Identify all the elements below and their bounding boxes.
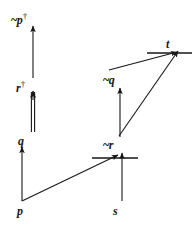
edge-nr-to-t <box>119 51 178 136</box>
atom-symbol: s <box>113 204 118 218</box>
diagram-figure: ~p† r† q p ~q ~r s t <box>0 0 192 228</box>
node-label-nr: ~r <box>103 137 113 151</box>
atom-symbol: p <box>17 204 23 218</box>
node-label-nq: ~q <box>103 72 115 86</box>
dagger-icon: † <box>21 79 26 89</box>
atom-symbol: r <box>109 138 114 152</box>
atom-symbol: q <box>109 73 115 87</box>
node-label-t: t <box>166 36 169 50</box>
diagram-canvas <box>0 0 192 228</box>
edge-p-to-nr <box>22 155 118 201</box>
node-label-p: p <box>17 203 23 217</box>
edge-q-to-r <box>31 91 34 132</box>
node-label-q: q <box>18 133 24 147</box>
node-label-np-dagger: ~p† <box>11 12 27 26</box>
atom-symbol: q <box>18 134 24 148</box>
dagger-icon: † <box>23 11 28 21</box>
node-label-s: s <box>113 203 118 217</box>
node-label-r-dagger: r† <box>16 80 25 94</box>
atom-symbol: t <box>166 37 169 51</box>
